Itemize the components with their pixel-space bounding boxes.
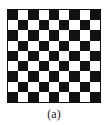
- figure: (a): [0, 0, 108, 125]
- board-cell: [39, 30, 49, 40]
- board-cell: [90, 92, 100, 102]
- board-cell: [80, 20, 90, 30]
- board-cell: [18, 82, 28, 92]
- board-cell: [18, 61, 28, 71]
- board-cell: [39, 41, 49, 51]
- board-cell: [18, 10, 28, 20]
- board-cell: [39, 61, 49, 71]
- board-cell: [59, 51, 69, 61]
- board-cell: [28, 82, 38, 92]
- board-cell: [18, 71, 28, 81]
- board-cell: [80, 71, 90, 81]
- board-cell: [59, 20, 69, 30]
- board-cell: [8, 20, 18, 30]
- board-cell: [69, 10, 79, 20]
- board-cell: [80, 82, 90, 92]
- board-cell: [39, 82, 49, 92]
- board-cell: [18, 51, 28, 61]
- board-cell: [49, 71, 59, 81]
- figure-caption: (a): [0, 106, 108, 122]
- board-cell: [18, 92, 28, 102]
- board-cell: [49, 61, 59, 71]
- board-cell: [18, 30, 28, 40]
- board-cell: [90, 82, 100, 92]
- board-cell: [90, 30, 100, 40]
- board-cell: [8, 61, 18, 71]
- board-cell: [69, 51, 79, 61]
- board-cell: [49, 82, 59, 92]
- board-cell: [90, 20, 100, 30]
- board-cell: [59, 61, 69, 71]
- board-cell: [18, 41, 28, 51]
- board-cell: [69, 30, 79, 40]
- board-cell: [28, 71, 38, 81]
- board-cell: [49, 10, 59, 20]
- board-cell: [28, 92, 38, 102]
- board-cell: [90, 61, 100, 71]
- board-cell: [59, 71, 69, 81]
- board-cell: [28, 30, 38, 40]
- board-cell: [90, 71, 100, 81]
- board-cell: [69, 82, 79, 92]
- board-cell: [80, 10, 90, 20]
- board-cell: [39, 51, 49, 61]
- board-cell: [49, 41, 59, 51]
- board-cell: [80, 41, 90, 51]
- board-cell: [59, 10, 69, 20]
- board-cell: [90, 10, 100, 20]
- board-cell: [80, 61, 90, 71]
- board-cell: [49, 20, 59, 30]
- board-cell: [8, 92, 18, 102]
- board-cell: [80, 30, 90, 40]
- board-cell: [90, 41, 100, 51]
- board-cell: [28, 61, 38, 71]
- board-cell: [69, 61, 79, 71]
- board-cell: [69, 41, 79, 51]
- board-cell: [69, 92, 79, 102]
- board-cell: [49, 30, 59, 40]
- board-cell: [28, 20, 38, 30]
- board-cell: [39, 71, 49, 81]
- board-cell: [80, 92, 90, 102]
- board-cell: [59, 92, 69, 102]
- board-cell: [69, 20, 79, 30]
- board-cell: [8, 10, 18, 20]
- board-cell: [18, 20, 28, 30]
- checkerboard-grid: [8, 10, 100, 102]
- board-cell: [8, 71, 18, 81]
- board-cell: [8, 30, 18, 40]
- board-cell: [90, 51, 100, 61]
- board-cell: [8, 82, 18, 92]
- board-cell: [59, 30, 69, 40]
- board-cell: [8, 41, 18, 51]
- board-cell: [28, 10, 38, 20]
- board-cell: [39, 20, 49, 30]
- board-cell: [49, 92, 59, 102]
- board-cell: [39, 10, 49, 20]
- board-cell: [8, 51, 18, 61]
- board-cell: [28, 41, 38, 51]
- board-cell: [39, 92, 49, 102]
- board-cell: [59, 41, 69, 51]
- board-cell: [28, 51, 38, 61]
- board-cell: [49, 51, 59, 61]
- board-cell: [59, 82, 69, 92]
- board-cell: [80, 51, 90, 61]
- board-cell: [69, 71, 79, 81]
